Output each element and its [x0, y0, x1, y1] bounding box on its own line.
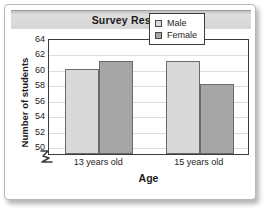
y-axis-tick-labels: 5052545658606264 [23, 39, 45, 155]
legend-swatch-male [155, 20, 162, 27]
chart-title-band: Survey Results [11, 10, 251, 29]
chart-legend: MaleFemale [149, 13, 205, 45]
x-axis-title: Age [48, 172, 249, 184]
legend-item-male: Male [155, 17, 197, 29]
y-axis-tick-label: 60 [23, 65, 45, 74]
y-axis-tick-label: 64 [23, 35, 45, 44]
y-axis-tick-label: 58 [23, 81, 45, 90]
x-axis-category-label: 15 years old [159, 157, 239, 167]
legend-label: Male [167, 18, 187, 28]
bar-female-0 [99, 61, 133, 154]
legend-label: Female [167, 30, 197, 40]
x-axis-category-labels: 13 years old15 years old [48, 157, 249, 170]
plot-area [48, 39, 249, 155]
bar-group-container [49, 40, 248, 154]
legend-item-female: Female [155, 29, 197, 41]
bar-male-1 [166, 61, 200, 154]
y-axis-tick-label: 62 [23, 50, 45, 59]
y-axis-tick-label: 54 [23, 112, 45, 121]
legend-swatch-female [155, 32, 162, 39]
x-axis-category-label: 13 years old [58, 157, 138, 167]
bar-female-1 [200, 84, 234, 154]
bar-male-0 [65, 69, 99, 154]
y-axis-tick-label: 56 [23, 96, 45, 105]
chart-card: Survey Results Number of students 505254… [4, 4, 256, 200]
y-axis-tick-label: 52 [23, 127, 45, 136]
